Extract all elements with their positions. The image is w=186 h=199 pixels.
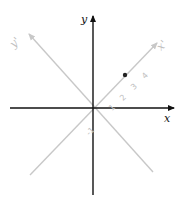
plotted-point (123, 73, 127, 77)
y-prime-axis-label: y' (6, 35, 22, 51)
y-axis-label: y (80, 13, 88, 26)
rotated-axes-diagram: y x x' y' 1 2 3 4 -1 (0, 0, 186, 199)
x-prime-tick-3: 3 (129, 82, 139, 92)
x-axis-label: x (164, 112, 171, 125)
x-prime-tick-2: 2 (118, 93, 128, 103)
x-prime-tick-4: 4 (140, 71, 150, 81)
x-prime-tick-1: 1 (107, 103, 117, 113)
x-prime-tick-neg1: -1 (84, 125, 96, 137)
x-prime-axis-label: x' (154, 38, 170, 54)
y-prime-axis (29, 34, 153, 172)
